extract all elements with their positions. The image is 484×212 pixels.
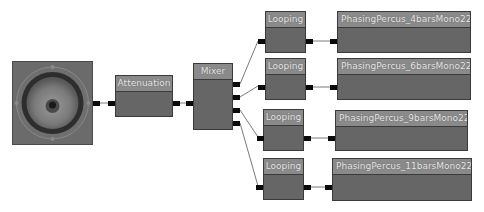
- mixer-output-pin[interactable]: [186, 101, 193, 106]
- wave-2-output-pin[interactable]: [330, 85, 337, 90]
- looping-title: Looping: [264, 159, 303, 175]
- attenuation-node[interactable]: Attenuation: [115, 75, 173, 117]
- attenuation-output-pin[interactable]: [173, 101, 180, 106]
- wave-title: PhasingPercus_9barsMono22k: [336, 111, 467, 127]
- attenuation-title: Attenuation: [116, 76, 172, 92]
- output-pin[interactable]: [93, 101, 100, 106]
- wave-node-4[interactable]: PhasingPercus_11barsMono22k: [332, 158, 472, 201]
- looping-node-3[interactable]: Looping: [263, 109, 304, 151]
- wave-node-3[interactable]: PhasingPercus_9barsMono22k: [335, 110, 468, 151]
- wave-node-1[interactable]: PhasingPercus_4barsMono22k: [337, 11, 471, 53]
- looping-node-2[interactable]: Looping: [265, 58, 306, 100]
- mixer-input-pin-1[interactable]: [233, 82, 240, 87]
- looping-1-input-pin[interactable]: [306, 39, 313, 44]
- looping-title: Looping: [264, 110, 303, 126]
- wave-4-output-pin[interactable]: [325, 185, 332, 190]
- looping-2-input-pin[interactable]: [306, 85, 313, 90]
- wave-1-output-pin[interactable]: [330, 39, 337, 44]
- wave-title: PhasingPercus_6barsMono22k: [338, 59, 470, 75]
- wave-title: PhasingPercus_11barsMono22k: [333, 159, 471, 175]
- looping-4-input-pin[interactable]: [304, 185, 311, 190]
- mixer-input-pin-4[interactable]: [233, 121, 240, 126]
- looping-node-4[interactable]: Looping: [263, 158, 304, 200]
- looping-3-output-pin[interactable]: [257, 136, 264, 141]
- looping-title: Looping: [266, 12, 305, 28]
- looping-2-output-pin[interactable]: [258, 85, 265, 90]
- mixer-input-pin-3[interactable]: [233, 108, 240, 113]
- looping-3-input-pin[interactable]: [304, 136, 311, 141]
- wave-node-2[interactable]: PhasingPercus_6barsMono22k: [337, 58, 471, 100]
- sound-cue-output-node[interactable]: [12, 61, 93, 145]
- mixer-input-pin-2[interactable]: [233, 95, 240, 100]
- wave-title: PhasingPercus_4barsMono22k: [338, 12, 470, 28]
- looping-1-output-pin[interactable]: [258, 39, 265, 44]
- looping-title: Looping: [266, 59, 305, 75]
- mixer-title: Mixer: [194, 64, 232, 80]
- looping-4-output-pin[interactable]: [256, 185, 263, 190]
- attenuation-input-pin[interactable]: [108, 101, 115, 106]
- speaker-icon: [13, 62, 92, 144]
- looping-node-1[interactable]: Looping: [265, 11, 306, 53]
- mixer-node[interactable]: Mixer: [193, 63, 233, 130]
- wave-3-output-pin[interactable]: [328, 136, 335, 141]
